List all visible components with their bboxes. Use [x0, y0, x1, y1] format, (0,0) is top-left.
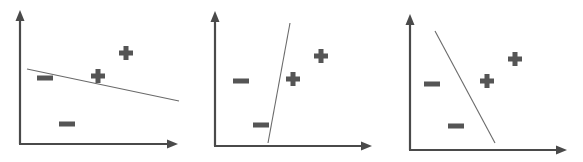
- x-axis-arrow-icon: [167, 140, 178, 149]
- decision-boundary: [268, 23, 290, 143]
- panel-1: −−++: [16, 10, 180, 149]
- minus-icon: −: [424, 82, 440, 87]
- x-axis-arrow-icon: [556, 146, 567, 155]
- y-axis-arrow-icon: [211, 11, 220, 22]
- minus-icon: −: [448, 124, 464, 129]
- minus-icon: −: [233, 79, 249, 84]
- y-axis-arrow-icon: [16, 10, 25, 21]
- linear-classifier-figure: −−++−−++−−++: [0, 0, 583, 162]
- minus-icon: −: [253, 123, 269, 128]
- minus-icon: −: [37, 76, 53, 81]
- plus-icon: +: [480, 74, 494, 88]
- x-axis-arrow-icon: [361, 142, 372, 151]
- figure-canvas: −−++−−++−−++: [0, 0, 583, 162]
- plus-icon: +: [286, 72, 300, 86]
- plus-icon: +: [508, 52, 522, 66]
- panel-3: −−++: [406, 14, 568, 155]
- panel-2: −−++: [211, 11, 373, 151]
- plus-icon: +: [119, 46, 133, 60]
- plus-icon: +: [314, 49, 328, 63]
- plus-icon: +: [91, 69, 105, 83]
- minus-icon: −: [59, 122, 75, 127]
- y-axis-arrow-icon: [406, 14, 415, 25]
